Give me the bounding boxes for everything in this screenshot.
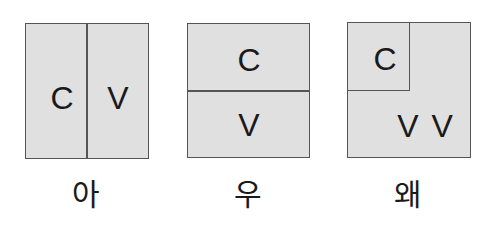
vowel-label: V [238, 109, 259, 141]
panel-a-box: C V [25, 23, 149, 159]
panel-wae-caption: 왜 [394, 180, 422, 210]
panel-u-caption: 우 [234, 180, 262, 210]
vowel-label: V V [397, 110, 455, 142]
consonant-label: C [237, 44, 260, 76]
panel-a-caption: 아 [72, 180, 100, 210]
panel-u-box: C V [187, 23, 310, 158]
consonant-label: C [50, 82, 73, 114]
horizontal-divider [188, 90, 309, 92]
vertical-divider [86, 24, 88, 158]
panel-wae-box: C V V [347, 22, 471, 158]
consonant-label: C [373, 43, 396, 75]
vowel-label: V [107, 82, 128, 114]
